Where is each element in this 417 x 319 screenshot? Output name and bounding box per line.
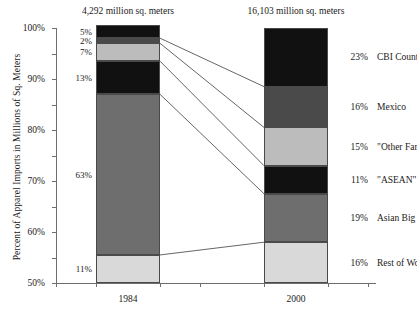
legend-label: Mexico (377, 102, 406, 112)
x-tick-6 (368, 283, 369, 287)
segment-1984-other-far-east[interactable] (96, 43, 160, 61)
x-axis-label-1984: 1984 (119, 294, 138, 304)
bar-caption-1984: 4,292 million sq. meters (82, 6, 174, 16)
legend-row-asean[interactable]: 11%"ASEAN" (342, 175, 416, 185)
y-axis-title: Percent of Apparel Imports in Millions o… (12, 32, 22, 282)
legend-percent: 23% (342, 52, 368, 62)
segment-1984-mexico[interactable] (96, 38, 160, 43)
legend-percent: 16% (342, 102, 368, 112)
y-tick-label-90: 90% (28, 74, 45, 84)
legend-percent: 11% (342, 175, 368, 185)
segment-1984-cbi-countries[interactable] (96, 25, 160, 38)
x-tick-0 (56, 283, 57, 287)
x-tick-3 (200, 283, 201, 287)
legend-label: "Other Far East" (377, 142, 417, 152)
segment-2000-mexico[interactable] (264, 87, 328, 128)
x-tick-1 (96, 283, 97, 287)
x-axis-label-2000: 2000 (287, 294, 306, 304)
connector-line-3 (160, 61, 264, 166)
connector-line-5 (160, 38, 264, 86)
legend-row-mexico[interactable]: 16%Mexico (342, 102, 406, 112)
legend-label: CBI Countries (377, 52, 417, 62)
segment-2000-cbi-countries[interactable] (264, 28, 328, 87)
segment-1984-asean[interactable] (96, 61, 160, 94)
segment-1984-rest-of-world[interactable] (96, 255, 160, 283)
legend-row-asian-big-four[interactable]: 19%Asian Big Four (342, 213, 417, 223)
x-tick-5 (328, 283, 329, 287)
value-label-1984-asian-big-four: 63% (76, 170, 93, 180)
legend-percent: 19% (342, 213, 368, 223)
legend-label: "ASEAN" (377, 175, 416, 185)
connector-line-4 (160, 43, 264, 127)
value-label-1984-cbi-countries: 5% (80, 27, 92, 37)
y-tick-label-70: 70% (28, 176, 45, 186)
legend-row-rest-of-world[interactable]: 16%Rest of World (342, 258, 417, 268)
segment-2000-asean[interactable] (264, 166, 328, 194)
y-tick-label-100: 100% (23, 23, 45, 33)
segment-2000-other-far-east[interactable] (264, 127, 328, 165)
value-label-1984-other-far-east: 7% (80, 47, 92, 57)
stacked-bar-chart: Percent of Apparel Imports in Millions o… (0, 0, 417, 319)
connector-line-2 (160, 94, 264, 193)
y-tick-label-60: 60% (28, 227, 45, 237)
segment-2000-asian-big-four[interactable] (264, 194, 328, 242)
legend-label: Asian Big Four (377, 213, 417, 223)
legend-label: Rest of World (377, 258, 417, 268)
x-tick-2 (160, 283, 161, 287)
segment-1984-asian-big-four[interactable] (96, 94, 160, 255)
y-tick-label-50: 50% (28, 278, 45, 288)
value-label-1984-asean: 13% (76, 73, 93, 83)
value-label-1984-rest-of-world: 11% (76, 264, 92, 274)
bar-caption-2000: 16,103 million sq. meters (248, 6, 345, 16)
legend-percent: 16% (342, 258, 368, 268)
x-tick-4 (264, 283, 265, 287)
plot-area: 0%10%20%30%40%50%60%70%80%90%100% 198420… (56, 28, 376, 283)
legend-row-other-far-east[interactable]: 15%"Other Far East" (342, 142, 417, 152)
segment-2000-rest-of-world[interactable] (264, 242, 328, 283)
legend-percent: 15% (342, 142, 368, 152)
connector-line-1 (160, 242, 264, 255)
value-label-1984-mexico: 2% (80, 36, 92, 46)
y-tick-label-80: 80% (28, 125, 45, 135)
legend-row-cbi-countries[interactable]: 23%CBI Countries (342, 52, 417, 62)
